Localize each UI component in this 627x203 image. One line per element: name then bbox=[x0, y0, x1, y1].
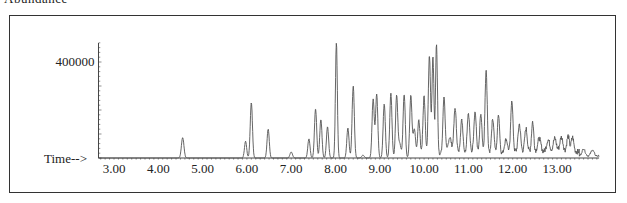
x-tick-label: 11.00 bbox=[454, 161, 483, 176]
x-tick-label: 10.00 bbox=[409, 161, 438, 176]
x-tick-label: 12.00 bbox=[498, 161, 527, 176]
x-tick-label: 3.00 bbox=[103, 161, 126, 176]
x-tick-label: 6.00 bbox=[236, 161, 259, 176]
x-tick-label: 8.00 bbox=[324, 161, 347, 176]
x-tick-label: 7.00 bbox=[280, 161, 303, 176]
chromatogram-trace bbox=[99, 43, 599, 158]
x-tick-label: 4.00 bbox=[147, 161, 170, 176]
x-tick-label: 9.00 bbox=[368, 161, 391, 176]
x-tick-label: 5.00 bbox=[191, 161, 214, 176]
x-axis-title: Time--> bbox=[44, 151, 87, 166]
y-tick-label: 400000 bbox=[55, 54, 94, 69]
x-tick-label: 13.00 bbox=[542, 161, 571, 176]
chromatogram-chart: 3.004.005.006.007.008.009.0010.0011.0012… bbox=[0, 0, 627, 203]
